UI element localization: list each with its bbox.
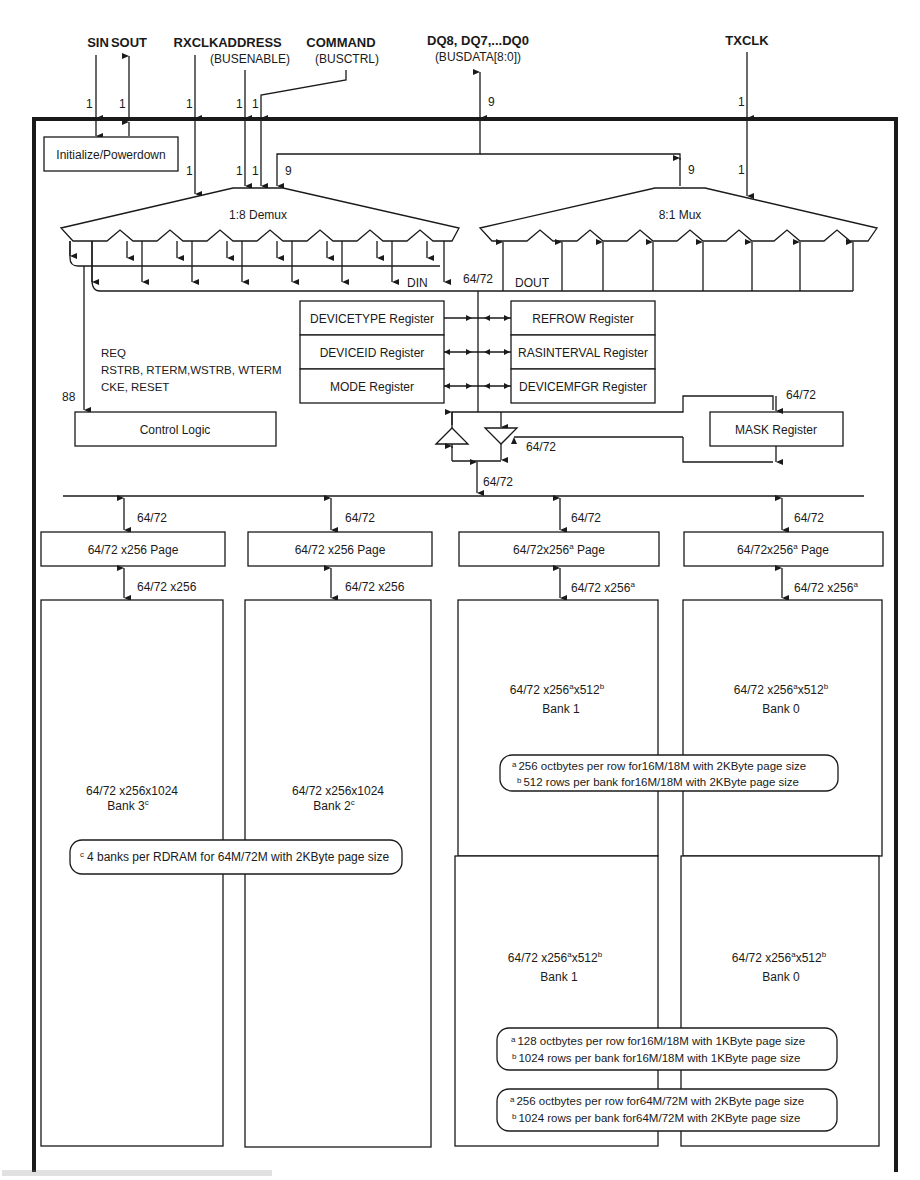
signal-dq-label: DQ8, DQ7,...DQ0 xyxy=(427,33,529,48)
rdram-block-diagram: SIN SOUT RXCLK ADDRESS (BUSENABLE) COMMA… xyxy=(0,0,920,1180)
width-sin: 1 xyxy=(86,97,93,111)
footnote-b-2k-16m: b512 rows per bank for16M/18M with 2KByt… xyxy=(517,776,799,788)
signal-rxclk-label: RXCLK xyxy=(174,35,219,50)
control-logic-label: Control Logic xyxy=(140,423,211,437)
signal-address-label: ADDRESS xyxy=(218,35,282,50)
col1-lower-bank-size: 64/72 x256ax512b xyxy=(508,950,603,965)
registers-right: REFROW Register RASINTERVAL Register DEV… xyxy=(511,301,655,403)
demux-outputs: DIN xyxy=(70,241,470,291)
initialize-powerdown-block: Initialize/Powerdown xyxy=(44,137,178,171)
mux-label: 8:1 Mux xyxy=(659,208,702,222)
bus-to-banks-width: 64/72 xyxy=(483,475,513,489)
col2-page-label: 64/72 x256 Page xyxy=(295,543,386,557)
width-command-inner: 1 xyxy=(252,164,259,178)
mask-out-width: 64/72 xyxy=(526,440,556,454)
col1-upper-bank-size: 64/72 x256ax512b xyxy=(510,682,605,697)
col0-lower-bank-size: 64/72 x256ax512b xyxy=(732,950,827,965)
col1-page-label: 64/72x256a Page xyxy=(513,542,605,557)
col0-bus-width: 64/72 xyxy=(794,511,824,525)
width-txclk: 1 xyxy=(738,95,745,109)
col1-upper-bank-name: Bank 1 xyxy=(542,702,580,716)
col0-upper-bank-size: 64/72 x256ax512b xyxy=(734,682,829,697)
footnote-a-1k-16m: a128 octbytes per row for16M/18M with 1K… xyxy=(511,1035,805,1047)
footnote-b-2k-64m: b1024 rows per bank for64M/72M with 2KBy… xyxy=(512,1112,800,1124)
col2-page-width: 64/72 x256 xyxy=(345,580,405,594)
width-address-inner: 1 xyxy=(236,164,243,178)
width-address: 1 xyxy=(236,97,243,111)
width-sout: 1 xyxy=(119,97,126,111)
footnote-c-text: c4 banks per RDRAM for 64M/72M with 2KBy… xyxy=(80,850,389,864)
footnote-ab-1k-16m: a128 octbytes per row for16M/18M with 1K… xyxy=(497,1028,837,1070)
mux-inputs: DOUT 64/72 xyxy=(463,242,853,291)
signal-address-sublabel: (BUSENABLE) xyxy=(210,52,290,66)
col2-bank-size: 64/72 x256x1024 xyxy=(292,784,384,798)
driver-up-icon xyxy=(436,428,468,444)
internal-bus-width: 64/72 xyxy=(463,272,493,286)
control-width: 88 xyxy=(62,390,76,404)
width-rxclk: 1 xyxy=(186,97,193,111)
col3-bank-size: 64/72 x256x1024 xyxy=(86,784,178,798)
width-data-mux: 9 xyxy=(688,163,695,177)
control-signal-cke-reset: CKE, RESET xyxy=(101,381,169,393)
col0-page-label: 64/72x256a Page xyxy=(737,542,829,557)
col0-page-width: 64/72 x256a xyxy=(794,580,858,595)
register-devicetype: DEVICETYPE Register xyxy=(310,312,434,326)
signal-command-sublabel: (BUSCTRL) xyxy=(315,52,379,66)
footnote-a-2k-64m: a256 octbytes per row for64M/72M with 2K… xyxy=(510,1095,804,1107)
footnote-c: c4 banks per RDRAM for 64M/72M with 2KBy… xyxy=(70,840,402,874)
demux-block: 1:8 Demux xyxy=(61,188,459,241)
footnote-ab-2k-64m: a256 octbytes per row for64M/72M with 2K… xyxy=(497,1089,837,1131)
mask-register-block: MASK Register 64/72 xyxy=(710,388,843,462)
control-signal-req: REQ xyxy=(101,347,126,359)
signal-sout-label: SOUT xyxy=(111,35,147,50)
dout-label: DOUT xyxy=(515,276,550,290)
signal-width-labels: 1 1 1 1 1 9 1 1 1 1 9 9 1 xyxy=(86,95,745,178)
external-signal-lines xyxy=(96,52,747,196)
register-mode: MODE Register xyxy=(330,380,414,394)
bank-column-3: 64/72 64/72 x256 Page 64/72 x256 64/72 x… xyxy=(41,498,225,1146)
signal-txclk-label: TXCLK xyxy=(725,33,769,48)
width-data-demux: 9 xyxy=(285,164,292,178)
col3-bus-width: 64/72 xyxy=(137,511,167,525)
width-dq: 9 xyxy=(488,95,495,109)
col1-lower-bank-name: Bank 1 xyxy=(540,970,578,984)
bank-column-2: 64/72 64/72 x256 Page 64/72 x256 64/72 x… xyxy=(245,498,432,1147)
control-signal-strobes: RSTRB, RTERM,WSTRB, WTERM xyxy=(101,364,282,376)
register-rasinterval: RASINTERVAL Register xyxy=(518,346,648,360)
footnote-b-1k-16m: b1024 rows per bank for16M/18M with 1KBy… xyxy=(512,1052,800,1064)
register-refrow: REFROW Register xyxy=(532,312,633,326)
col2-bus-width: 64/72 xyxy=(345,511,375,525)
mask-register-label: MASK Register xyxy=(735,423,817,437)
footnote-ab-2k-16m: a256 octbytes per row for16M/18M with 2K… xyxy=(500,755,838,791)
width-rxclk-inner: 1 xyxy=(186,164,193,178)
signal-command-label: COMMAND xyxy=(306,35,375,50)
cut-off-caption xyxy=(2,1170,272,1176)
width-txclk-inner: 1 xyxy=(738,163,745,177)
demux-label: 1:8 Demux xyxy=(229,208,287,222)
control-path: 88 REQ RSTRB, RTERM,WSTRB, WTERM CKE, RE… xyxy=(62,266,282,446)
register-devicemfgr: DEVICEMFGR Register xyxy=(519,380,647,394)
col3-bank-name: Bank 3c xyxy=(107,798,148,813)
driver-down-icon xyxy=(485,428,517,444)
register-deviceid: DEVICEID Register xyxy=(320,346,425,360)
col2-bank-name: Bank 2c xyxy=(313,798,354,813)
mux-block: 8:1 Mux xyxy=(480,188,877,241)
col0-upper-bank-name: Bank 0 xyxy=(762,702,800,716)
col3-page-width: 64/72 x256 xyxy=(137,580,197,594)
col0-lower-bank-name: Bank 0 xyxy=(762,970,800,984)
col1-bus-width: 64/72 xyxy=(571,511,601,525)
top-signals: SIN SOUT RXCLK ADDRESS (BUSENABLE) COMMA… xyxy=(87,33,769,66)
initialize-powerdown-label: Initialize/Powerdown xyxy=(56,148,165,162)
din-label: DIN xyxy=(407,276,428,290)
mask-in-width: 64/72 xyxy=(786,388,816,402)
col3-page-label: 64/72 x256 Page xyxy=(88,543,179,557)
signal-dq-sublabel: (BUSDATA[8:0]) xyxy=(435,50,521,64)
footnote-a-2k-16m: a256 octbytes per row for16M/18M with 2K… xyxy=(512,760,806,772)
signal-sin-label: SIN xyxy=(87,35,109,50)
registers-left: DEVICETYPE Register DEVICEID Register MO… xyxy=(300,301,444,403)
col1-page-width: 64/72 x256a xyxy=(571,580,635,595)
width-command: 1 xyxy=(252,97,259,111)
